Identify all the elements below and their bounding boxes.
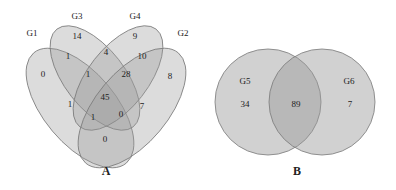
region-g1-g3: 1 xyxy=(66,51,71,61)
region-g4-only: 9 xyxy=(133,31,138,41)
region-g1-g2: 0 xyxy=(103,134,108,144)
venn-diagram-a: G1 G2 G3 G4 14 9 0 8 1 4 10 1 28 45 1 7 … xyxy=(6,11,206,187)
region-g3-only: 14 xyxy=(73,31,83,41)
set-label-g1: G1 xyxy=(27,28,38,38)
region-g1-g3-g4: 1 xyxy=(86,69,91,79)
venn-diagram-b: G5 G6 34 89 7 B xyxy=(215,49,375,178)
region-g2-g3: 7 xyxy=(140,101,145,111)
set-label-g5: G5 xyxy=(240,76,251,86)
region-g1-g2-g3: 0 xyxy=(119,109,124,119)
panel-label-b: B xyxy=(293,164,301,178)
set-g6-circle xyxy=(269,49,375,155)
region-g2-only: 8 xyxy=(168,71,173,81)
set-label-g6: G6 xyxy=(344,76,355,86)
venn-figure: G1 G2 G3 G4 14 9 0 8 1 4 10 1 28 45 1 7 … xyxy=(0,0,396,190)
set-label-g3: G3 xyxy=(72,11,83,21)
region-g1-g2-g4: 1 xyxy=(91,112,96,122)
region-g2-g3-g4: 28 xyxy=(122,69,132,79)
region-g1-g4: 1 xyxy=(68,99,73,109)
region-g5-only: 34 xyxy=(241,99,251,109)
set-label-g2: G2 xyxy=(178,28,189,38)
region-g3-g4: 4 xyxy=(104,47,109,57)
region-all-four: 45 xyxy=(101,92,111,102)
region-g5-g6: 89 xyxy=(292,99,302,109)
panel-label-a: A xyxy=(102,164,111,178)
region-g1-only: 0 xyxy=(41,69,46,79)
region-g2-g4: 10 xyxy=(138,51,148,61)
set-label-g4: G4 xyxy=(130,11,141,21)
region-g6-only: 7 xyxy=(348,99,353,109)
